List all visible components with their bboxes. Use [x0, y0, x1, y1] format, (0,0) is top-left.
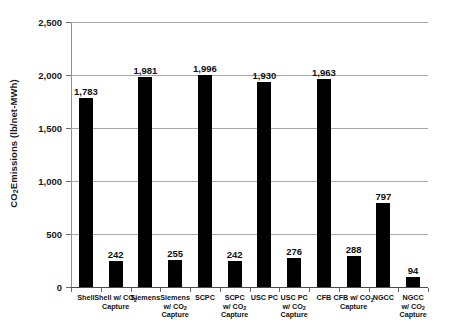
bar [376, 203, 390, 287]
x-tick-mark [220, 288, 221, 292]
bar-value-label: 94 [408, 265, 419, 276]
bar-value-label: 1,783 [74, 86, 98, 97]
bar [347, 256, 361, 287]
y-tick-label: 1,500 [0, 123, 62, 134]
x-tick-label: NGCCw/ CO2Capture [387, 294, 439, 320]
bar-value-label: 797 [375, 191, 391, 202]
y-tick-label: 2,500 [0, 17, 62, 28]
bar-value-label: 1,981 [133, 65, 157, 76]
x-tick-mark [428, 288, 429, 292]
x-tick-mark [309, 288, 310, 292]
x-tick-mark [250, 288, 251, 292]
bar-value-label: 242 [227, 249, 243, 260]
co2-emissions-bar-chart: CO2 Emissions (lb/net-MWh) 05001,0001,50… [0, 0, 454, 336]
bar-value-label: 1,930 [252, 70, 276, 81]
y-tick-label: 500 [0, 229, 62, 240]
bar-value-label: 242 [108, 249, 124, 260]
x-tick-mark [160, 288, 161, 292]
bar [317, 79, 331, 287]
bar [109, 261, 123, 287]
x-tick-mark [398, 288, 399, 292]
x-tick-mark [131, 288, 132, 292]
bar [79, 98, 93, 287]
bar-value-label: 276 [286, 246, 302, 257]
x-tick-mark [101, 288, 102, 292]
plot-area [71, 22, 428, 287]
bar [138, 77, 152, 287]
bar-value-label: 1,996 [193, 63, 217, 74]
x-tick-mark [71, 288, 72, 292]
bar-value-label: 255 [167, 248, 183, 259]
y-tick-label: 1,000 [0, 176, 62, 187]
x-tick-mark [190, 288, 191, 292]
y-axis-title: CO2 Emissions (lb/net-MWh) [2, 0, 24, 287]
bar-value-label: 288 [346, 244, 362, 255]
y-tick-label: 2,000 [0, 70, 62, 81]
y-tick-label: 0 [0, 282, 62, 293]
bar [168, 260, 182, 287]
bar [257, 82, 271, 287]
bar [406, 277, 420, 287]
bar-value-label: 1,963 [312, 67, 336, 78]
x-tick-mark [339, 288, 340, 292]
bar [287, 258, 301, 287]
bar [228, 261, 242, 287]
x-tick-mark [279, 288, 280, 292]
bar [198, 75, 212, 287]
x-tick-mark [369, 288, 370, 292]
